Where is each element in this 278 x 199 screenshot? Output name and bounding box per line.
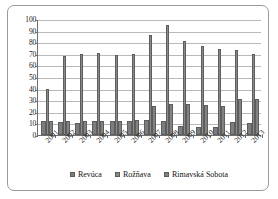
legend-swatch-icon (70, 172, 75, 177)
legend-label: Rimavská Sobota (172, 170, 228, 179)
x-axis-labels: 2001200220032004200520062007200820092010… (37, 137, 261, 165)
y-axis-tick-label: 40 (12, 86, 36, 94)
y-axis-tick-label: 80 (12, 39, 36, 47)
bar-group (141, 20, 158, 135)
bar-group (245, 20, 262, 135)
y-axis-labels: 0102030405060708090100 (12, 14, 36, 142)
bar-group (55, 20, 72, 135)
bar-group (72, 20, 89, 135)
y-axis-tick-label: 70 (12, 51, 36, 59)
bar-group (193, 20, 210, 135)
y-axis-tick-label: 90 (12, 28, 36, 36)
y-axis-tick-label: 30 (12, 97, 36, 105)
legend-swatch-icon (115, 172, 120, 177)
y-axis-tick-label: 100 (12, 16, 36, 24)
legend-item[interactable]: Rimavská Sobota (164, 170, 228, 179)
bar-group (124, 20, 141, 135)
legend-label: Revúca (78, 170, 102, 179)
bar-group (210, 20, 227, 135)
bar-groups (38, 20, 261, 135)
legend-item[interactable]: Revúca (70, 170, 102, 179)
y-axis-tick-label: 0 (12, 132, 36, 140)
y-axis-tick-label: 10 (12, 120, 36, 128)
bar-group (228, 20, 245, 135)
legend-swatch-icon (164, 172, 169, 177)
legend-label: Rožňava (123, 170, 151, 179)
y-axis-tick-label: 60 (12, 62, 36, 70)
chart-legend: RevúcaRožňavaRimavská Sobota (37, 167, 261, 181)
bar-group (107, 20, 124, 135)
y-axis-tick-label: 20 (12, 109, 36, 117)
bar-group (176, 20, 193, 135)
legend-item[interactable]: Rožňava (115, 170, 151, 179)
chart-container: 0102030405060708090100 20012002200320042… (0, 0, 278, 199)
bar-group (90, 20, 107, 135)
bar-group (159, 20, 176, 135)
bar-group (38, 20, 55, 135)
y-axis-tick-label: 50 (12, 74, 36, 82)
plot-area (37, 20, 261, 136)
